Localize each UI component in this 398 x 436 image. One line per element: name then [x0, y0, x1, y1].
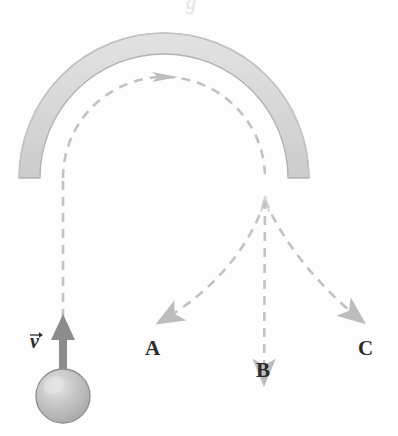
physics-figure: g	[0, 0, 398, 436]
trajectory-label-a: A	[145, 336, 160, 361]
trajectory-label-c: C	[358, 336, 373, 361]
trajectory-c	[265, 200, 362, 321]
in-tube-path	[63, 77, 265, 178]
velocity-label: v	[30, 330, 39, 353]
semicircular-tube	[19, 33, 309, 178]
trajectory-b	[264, 200, 265, 382]
trajectory-label-b: B	[256, 358, 270, 383]
diagram-canvas	[0, 0, 398, 436]
ball	[36, 369, 90, 423]
trajectory-a	[160, 200, 265, 322]
velocity-label-text: v	[30, 330, 39, 352]
